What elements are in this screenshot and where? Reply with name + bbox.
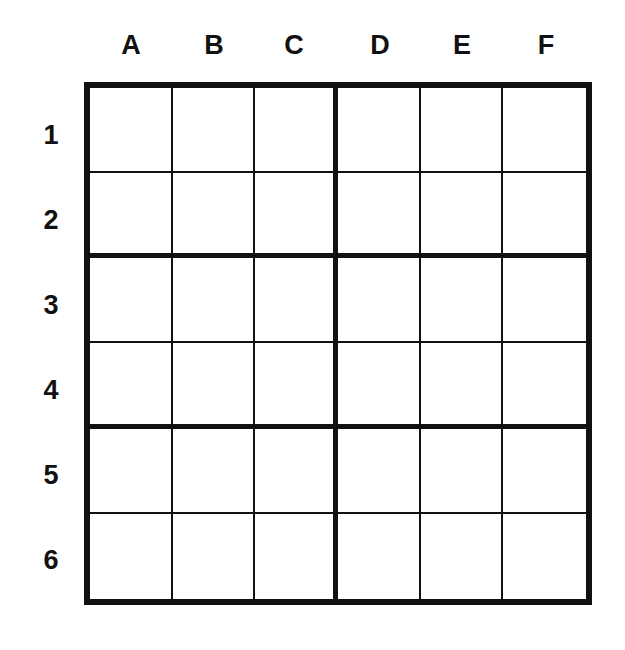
cell-e4[interactable] [421,343,504,428]
cell-b1[interactable] [173,88,256,173]
cell-f3[interactable] [503,258,586,343]
cell-f4[interactable] [503,343,586,428]
cell-f1[interactable] [503,88,586,173]
cell-f2[interactable] [503,173,586,258]
cell-f5[interactable] [503,429,586,514]
sudoku-board [84,82,592,605]
cell-c4[interactable] [255,343,338,428]
cell-c2[interactable] [255,173,338,258]
cell-d1[interactable] [338,88,421,173]
cell-d6[interactable] [338,514,421,599]
column-label-d: D [338,30,422,61]
cell-a3[interactable] [90,258,173,343]
cell-a1[interactable] [90,88,173,173]
row-label-5: 5 [36,460,66,491]
row-label-1: 1 [36,120,66,151]
cell-a5[interactable] [90,429,173,514]
cell-d2[interactable] [338,173,421,258]
column-label-a: A [89,30,173,61]
cell-c6[interactable] [255,514,338,599]
row-label-2: 2 [36,205,66,236]
cell-d4[interactable] [338,343,421,428]
cell-d3[interactable] [338,258,421,343]
cell-b2[interactable] [173,173,256,258]
cell-e2[interactable] [421,173,504,258]
column-label-b: B [172,30,256,61]
column-label-f: F [504,30,588,61]
cell-c1[interactable] [255,88,338,173]
cell-b6[interactable] [173,514,256,599]
cell-e6[interactable] [421,514,504,599]
cell-e5[interactable] [421,429,504,514]
cell-e3[interactable] [421,258,504,343]
row-label-6: 6 [36,545,66,576]
cell-a4[interactable] [90,343,173,428]
cell-c3[interactable] [255,258,338,343]
cell-f6[interactable] [503,514,586,599]
cell-b5[interactable] [173,429,256,514]
cell-a6[interactable] [90,514,173,599]
column-label-c: C [252,30,336,61]
row-label-4: 4 [36,375,66,406]
cell-d5[interactable] [338,429,421,514]
cell-b3[interactable] [173,258,256,343]
cell-e1[interactable] [421,88,504,173]
cell-b4[interactable] [173,343,256,428]
cell-a2[interactable] [90,173,173,258]
row-label-3: 3 [36,290,66,321]
cell-c5[interactable] [255,429,338,514]
column-label-e: E [420,30,504,61]
